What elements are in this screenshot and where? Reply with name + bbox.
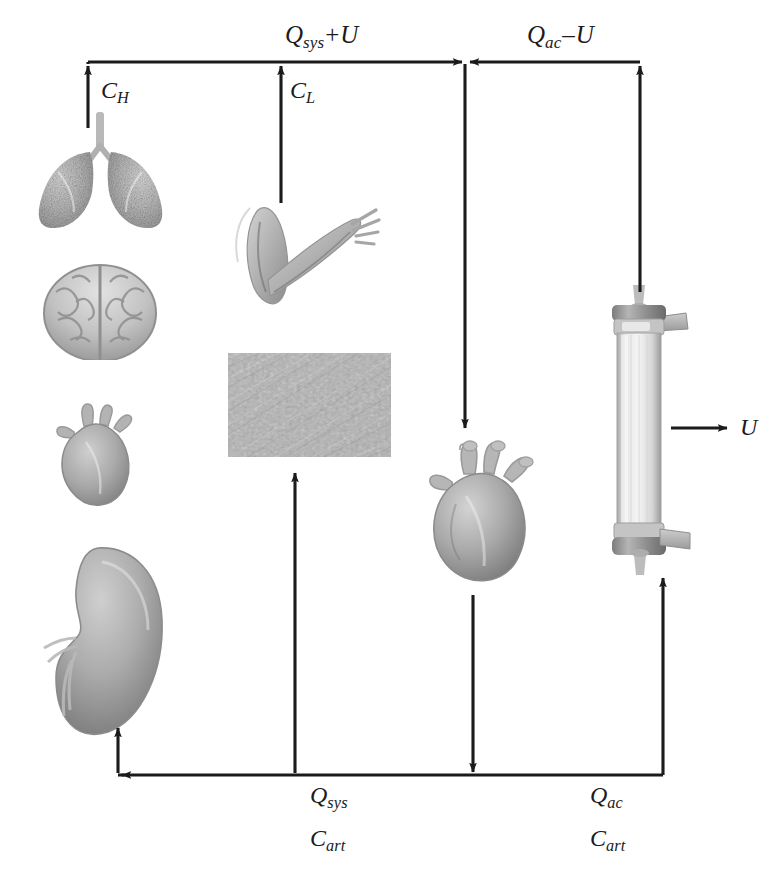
label-c-l: CL bbox=[290, 78, 315, 102]
label-c-art-left: Cart bbox=[310, 826, 345, 850]
label-c-art-right: Cart bbox=[590, 826, 625, 850]
label-q-sys-plus-u: Qsys+U bbox=[285, 22, 358, 47]
label-q-ac: Qac bbox=[590, 783, 623, 807]
label-q-sys: Qsys bbox=[310, 783, 348, 807]
flow-diagram-canvas: Qsys+U Qac–U CH CL U Qsys Cart Qac Cart bbox=[0, 0, 782, 873]
label-u: U bbox=[740, 415, 757, 439]
connection-lines bbox=[0, 0, 782, 873]
label-c-h: CH bbox=[101, 78, 129, 102]
label-q-ac-minus-u: Qac–U bbox=[527, 22, 594, 47]
